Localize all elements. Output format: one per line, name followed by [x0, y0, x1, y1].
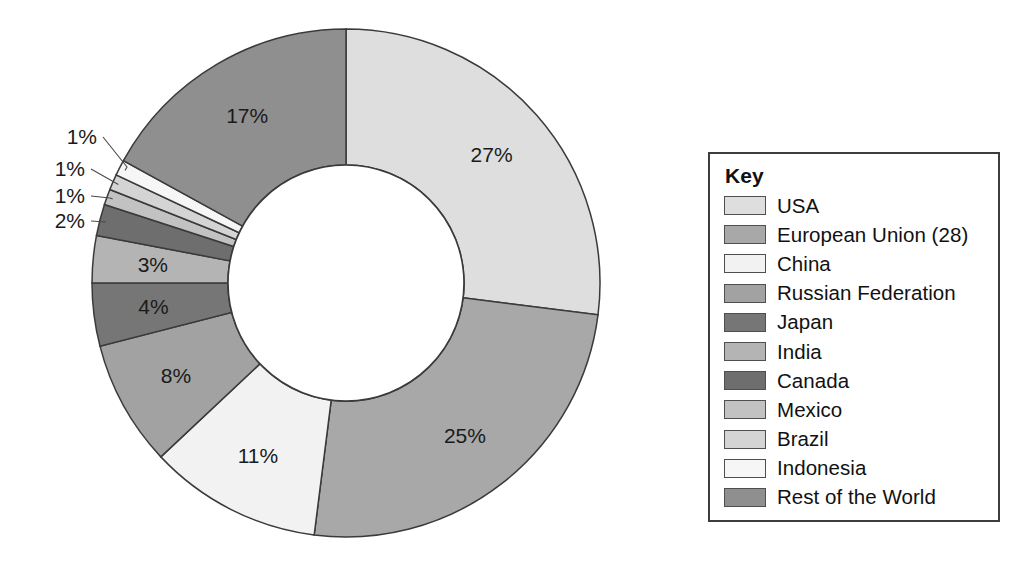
legend-swatch: [724, 313, 766, 332]
legend-item[interactable]: Indonesia: [724, 454, 998, 483]
callout-leader-line: [91, 169, 118, 185]
legend-item[interactable]: Canada: [724, 366, 998, 395]
legend-item[interactable]: Mexico: [724, 395, 998, 424]
slice-value-label: 17%: [226, 104, 268, 127]
legend-item[interactable]: European Union (28): [724, 220, 998, 249]
legend-swatch: [724, 430, 766, 449]
legend-label: Canada: [777, 369, 849, 393]
slice-callout-label: 2%: [55, 209, 85, 232]
slice-callout-label: 1%: [55, 184, 85, 207]
donut-chart: 27%25%11%8%4%3%2%1%1%1%17%: [0, 0, 680, 561]
legend-label: Brazil: [777, 427, 829, 451]
legend-swatch: [724, 284, 766, 303]
legend-swatch: [724, 342, 766, 361]
slice-value-label: 27%: [471, 143, 513, 166]
legend-item[interactable]: China: [724, 249, 998, 278]
legend-item[interactable]: India: [724, 337, 998, 366]
legend-swatch: [724, 459, 766, 478]
legend-swatch: [724, 400, 766, 419]
legend-item[interactable]: Brazil: [724, 425, 998, 454]
slice-value-label: 4%: [138, 295, 168, 318]
legend-item[interactable]: USA: [724, 191, 998, 220]
donut-chart-svg: 27%25%11%8%4%3%2%1%1%1%17%: [0, 0, 680, 561]
legend-swatch: [724, 254, 766, 273]
legend-label: Japan: [777, 310, 833, 334]
legend-label: China: [777, 252, 831, 276]
legend-swatch: [724, 196, 766, 215]
legend-label: Russian Federation: [777, 281, 956, 305]
slice-callout-label: 1%: [55, 157, 85, 180]
legend-label: Indonesia: [777, 456, 866, 480]
donut-center-hole: [228, 165, 464, 401]
legend-label: India: [777, 340, 822, 364]
slice-value-label: 3%: [138, 253, 168, 276]
legend-swatch: [724, 371, 766, 390]
legend-swatch: [724, 225, 766, 244]
legend-item[interactable]: Japan: [724, 308, 998, 337]
legend-box: Key USAEuropean Union (28)ChinaRussian F…: [708, 152, 1000, 522]
legend-title: Key: [725, 163, 998, 188]
legend-label: European Union (28): [777, 223, 968, 247]
slice-value-label: 8%: [161, 364, 191, 387]
legend-label: Mexico: [777, 398, 842, 422]
slice-value-label: 25%: [444, 424, 486, 447]
legend-label: Rest of the World: [777, 485, 936, 509]
legend-label: USA: [777, 194, 819, 218]
slice-callout-label: 1%: [67, 125, 97, 148]
legend-item[interactable]: Russian Federation: [724, 279, 998, 308]
legend-item[interactable]: Rest of the World: [724, 483, 998, 512]
slice-value-label: 11%: [238, 444, 278, 467]
legend-swatch: [724, 488, 766, 507]
legend-items: USAEuropean Union (28)ChinaRussian Feder…: [724, 191, 998, 512]
